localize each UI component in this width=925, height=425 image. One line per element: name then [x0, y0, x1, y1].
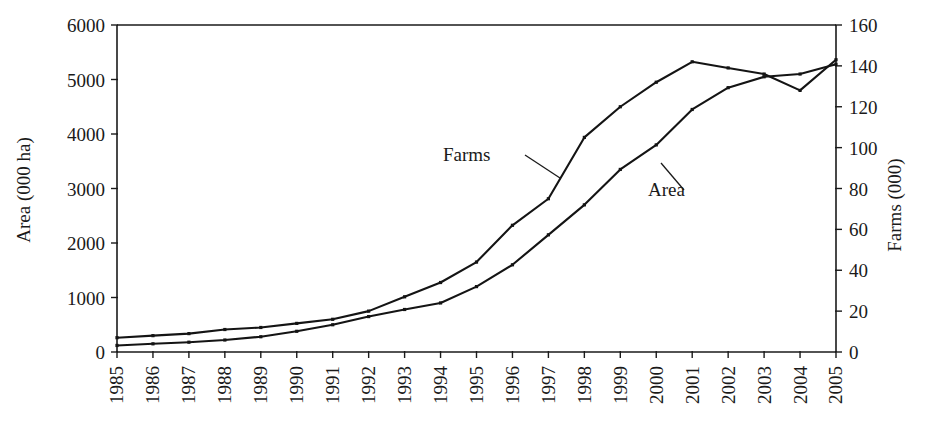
series-marker-area: [834, 63, 837, 66]
x-tick-label: 1988: [214, 366, 235, 404]
series-marker-farms: [115, 336, 118, 339]
right-tick-label: 100: [849, 138, 878, 159]
series-marker-farms: [151, 334, 154, 337]
right-tick-label: 80: [849, 179, 868, 200]
series-marker-area: [798, 72, 801, 75]
area-series-label: Area: [648, 179, 685, 200]
series-marker-farms: [367, 310, 370, 313]
x-tick-label: 1990: [286, 366, 307, 404]
left-tick-label: 3000: [67, 179, 105, 200]
series-marker-farms: [691, 60, 694, 63]
series-marker-area: [223, 338, 226, 341]
x-tick-label: 1999: [610, 366, 631, 404]
left-tick-label: 1000: [67, 288, 105, 309]
x-tick-label: 1992: [358, 366, 379, 404]
series-marker-farms: [655, 81, 658, 84]
x-tick-label: 1985: [106, 366, 127, 404]
right-tick-label: 60: [849, 219, 868, 240]
x-tick-label: 1997: [538, 366, 559, 404]
right-tick-label: 0: [849, 342, 859, 363]
x-tick-label: 1989: [250, 366, 271, 404]
series-marker-area: [691, 108, 694, 111]
series-marker-farms: [259, 326, 262, 329]
series-marker-farms: [798, 89, 801, 92]
x-tick-label: 1987: [178, 366, 199, 404]
x-tick-label: 2001: [682, 366, 703, 404]
series-marker-area: [547, 233, 550, 236]
x-axis-tick-labels: 1985198619871988198919901991199219931994…: [106, 366, 846, 405]
left-tick-label: 5000: [67, 70, 105, 91]
series-marker-farms: [511, 224, 514, 227]
series-marker-farms: [187, 332, 190, 335]
x-tick-label: 1993: [394, 366, 415, 404]
series-marker-area: [331, 323, 334, 326]
series-marker-farms: [834, 58, 837, 61]
series-marker-farms: [223, 328, 226, 331]
series-marker-area: [511, 263, 514, 266]
right-tick-label: 160: [849, 15, 878, 36]
right-tick-label: 20: [849, 301, 868, 322]
series-marker-farms: [475, 260, 478, 263]
series-marker-area: [115, 344, 118, 347]
series-marker-area: [151, 342, 154, 345]
left-axis-title: Area (000 ha): [13, 137, 35, 243]
x-tick-label: 2000: [646, 366, 667, 404]
right-tick-label: 120: [849, 97, 878, 118]
series-marker-farms: [763, 72, 766, 75]
left-tick-label: 4000: [67, 124, 105, 145]
series-marker-farms: [727, 66, 730, 69]
x-tick-label: 1998: [574, 366, 595, 404]
right-axis-title: Farms (000): [884, 158, 906, 251]
series-marker-farms: [331, 318, 334, 321]
farms-series-label: Farms: [443, 144, 491, 165]
x-tick-label: 1986: [142, 366, 163, 404]
x-tick-label: 1995: [466, 366, 487, 404]
series-marker-area: [187, 341, 190, 344]
x-tick-label: 1991: [322, 366, 343, 404]
series-marker-area: [439, 301, 442, 304]
series-marker-area: [403, 308, 406, 311]
chart-container: 0100020003000400050006000 02040608010012…: [0, 0, 925, 425]
series-marker-area: [655, 143, 658, 146]
series-marker-farms: [295, 322, 298, 325]
x-tick-label: 2004: [790, 366, 811, 405]
series-marker-area: [367, 315, 370, 318]
series-marker-area: [583, 203, 586, 206]
right-tick-label: 140: [849, 56, 878, 77]
series-marker-area: [259, 335, 262, 338]
x-axis-ticks: [117, 351, 836, 358]
series-marker-farms: [403, 295, 406, 298]
series-marker-farms: [583, 136, 586, 139]
right-tick-label: 40: [849, 260, 868, 281]
series-marker-area: [763, 75, 766, 78]
x-tick-label: 2003: [754, 366, 775, 404]
x-tick-label: 1996: [502, 366, 523, 404]
series-marker-farms: [619, 105, 622, 108]
line-chart-figure: 0100020003000400050006000 02040608010012…: [0, 0, 925, 425]
series-marker-area: [619, 168, 622, 171]
x-tick-label: 1994: [430, 366, 451, 405]
chart-background: [0, 0, 925, 425]
series-marker-area: [295, 330, 298, 333]
series-marker-area: [727, 86, 730, 89]
left-tick-label: 6000: [67, 15, 105, 36]
x-tick-label: 2005: [825, 366, 846, 404]
series-marker-farms: [439, 281, 442, 284]
left-tick-label: 0: [96, 342, 106, 363]
series-marker-area: [475, 285, 478, 288]
left-tick-label: 2000: [67, 233, 105, 254]
series-marker-farms: [547, 197, 550, 200]
x-tick-label: 2002: [718, 366, 739, 404]
